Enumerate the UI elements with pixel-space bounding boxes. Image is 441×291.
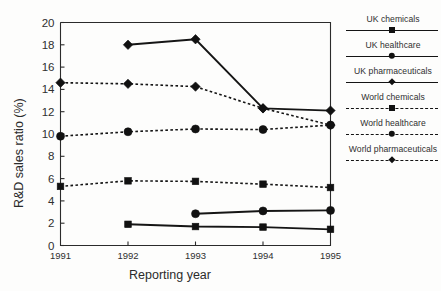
x-tick-label: 1995 xyxy=(320,250,341,261)
data-point-square xyxy=(260,181,267,188)
legend-sample xyxy=(345,103,439,114)
legend-entry-uk-chemicals[interactable]: UK chemicals xyxy=(345,14,441,36)
data-point-diamond xyxy=(123,79,132,88)
data-point-square xyxy=(260,224,267,231)
figure-container: 02468101214161820 19911992199319941995 R… xyxy=(0,0,441,291)
legend-sample xyxy=(345,155,439,166)
series-uk-pharmaceuticals xyxy=(123,35,335,116)
legend-label: World pharmaceuticals xyxy=(345,144,441,155)
data-point-square xyxy=(327,184,334,191)
data-point-square xyxy=(192,223,199,230)
y-tick-label: 18 xyxy=(42,39,55,51)
series-world-pharmaceuticals xyxy=(56,78,335,130)
legend-label: UK healthcare xyxy=(345,40,441,51)
y-tick-label: 20 xyxy=(42,17,55,29)
data-point-circle xyxy=(192,125,200,133)
y-tick-label: 4 xyxy=(48,195,55,207)
legend-label: UK chemicals xyxy=(345,14,441,25)
legend-entry-uk-healthcare[interactable]: UK healthcare xyxy=(345,40,441,62)
series-uk-healthcare xyxy=(192,206,335,217)
y-tick-label: 10 xyxy=(42,128,55,140)
legend-marker-square-icon xyxy=(389,27,395,33)
x-tick-label: 1994 xyxy=(252,250,273,261)
legend-label: UK pharmaceuticals xyxy=(345,66,441,77)
data-point-circle xyxy=(259,207,267,215)
series-line xyxy=(128,39,331,110)
legend-sample xyxy=(345,77,439,88)
data-point-diamond xyxy=(123,40,132,49)
x-tick-group: 19911992199319941995 xyxy=(50,242,341,261)
legend-entry-world-chemicals[interactable]: World chemicals xyxy=(345,92,441,114)
data-point-circle xyxy=(57,132,65,140)
y-tick-label: 8 xyxy=(48,150,54,162)
y-axis-title: R&D sales ratio (%) xyxy=(12,98,26,208)
x-tick-label: 1991 xyxy=(50,250,71,261)
legend-label: World chemicals xyxy=(345,92,441,103)
legend-marker-diamond-icon xyxy=(388,156,396,164)
chart-legend: UK chemicalsUK healthcareUK pharmaceutic… xyxy=(345,14,441,170)
y-tick-label: 2 xyxy=(48,217,54,229)
data-point-diamond xyxy=(56,78,65,87)
y-tick-label: 12 xyxy=(42,106,55,118)
data-point-circle xyxy=(327,206,335,214)
legend-sample xyxy=(345,51,439,62)
series-uk-chemicals xyxy=(125,221,334,233)
y-tick-label: 6 xyxy=(48,173,54,185)
data-point-square xyxy=(192,178,199,185)
legend-marker-circle-icon xyxy=(389,53,395,59)
legend-entry-world-pharmaceuticals[interactable]: World pharmaceuticals xyxy=(345,144,441,166)
legend-marker-circle-icon xyxy=(389,131,395,137)
legend-entry-uk-pharmaceuticals[interactable]: UK pharmaceuticals xyxy=(345,66,441,88)
x-axis-title: Reporting year xyxy=(0,268,340,282)
x-tick-label: 1993 xyxy=(185,250,206,261)
data-point-circle xyxy=(124,128,132,136)
legend-sample xyxy=(345,25,439,36)
data-point-diamond xyxy=(191,82,200,91)
legend-label: World healthcare xyxy=(345,118,441,129)
y-tick-label: 16 xyxy=(42,61,55,73)
series-world-chemicals xyxy=(57,178,334,191)
data-point-square xyxy=(125,221,132,228)
data-point-square xyxy=(57,183,64,190)
data-point-diamond xyxy=(326,120,335,129)
y-tick-label: 14 xyxy=(42,83,55,95)
data-point-square xyxy=(125,178,132,185)
data-series-group xyxy=(56,35,335,233)
data-point-circle xyxy=(192,210,200,218)
legend-marker-square-icon xyxy=(389,105,395,111)
legend-entry-world-healthcare[interactable]: World healthcare xyxy=(345,118,441,140)
data-point-circle xyxy=(259,126,267,134)
legend-marker-diamond-icon xyxy=(388,78,396,86)
series-world-healthcare xyxy=(57,121,335,140)
y-axis-title-wrap: R&D sales ratio (%) xyxy=(9,60,27,210)
data-point-diamond xyxy=(326,106,335,115)
series-line xyxy=(128,224,331,229)
legend-sample xyxy=(345,129,439,140)
data-point-square xyxy=(327,226,334,233)
x-tick-label: 1992 xyxy=(117,250,138,261)
